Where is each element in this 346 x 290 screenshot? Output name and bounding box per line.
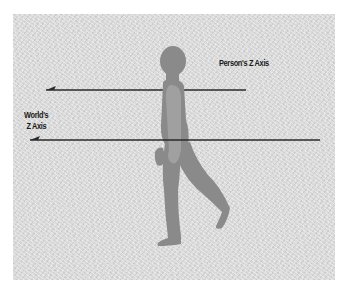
person-z-axis-label: Person's Z Axis (219, 58, 269, 69)
person-z-axis-arrow (46, 86, 246, 90)
world-label-line2: Z Axis (24, 121, 48, 132)
world-z-axis-label: World's Z Axis (24, 110, 48, 132)
world-label-line1: World's (24, 110, 48, 121)
walking-figure-diagram (0, 0, 346, 290)
person-silhouette (157, 46, 230, 246)
